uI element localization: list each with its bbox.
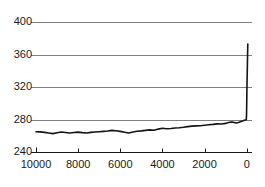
x-tick-label-8000: 8000 (66, 159, 90, 170)
x-tick-label-0: 0 (244, 159, 250, 170)
x-tick-label-10000: 10000 (21, 159, 52, 170)
y-tick-label-400: 400 (0, 16, 32, 27)
x-tick-label-4000: 4000 (150, 159, 174, 170)
x-axis (36, 148, 252, 153)
y-tick-label-240: 240 (0, 146, 32, 157)
x-tick-label-6000: 6000 (108, 159, 132, 170)
co2-line-chart: 400360320280240 1000080006000400020000 (0, 0, 265, 187)
y-tick-label-320: 320 (0, 81, 32, 92)
y-tick-label-360: 360 (0, 49, 32, 60)
y-tick-label-280: 280 (0, 114, 32, 125)
x-tick-label-2000: 2000 (192, 159, 216, 170)
horizontal-gridlines (36, 23, 252, 121)
